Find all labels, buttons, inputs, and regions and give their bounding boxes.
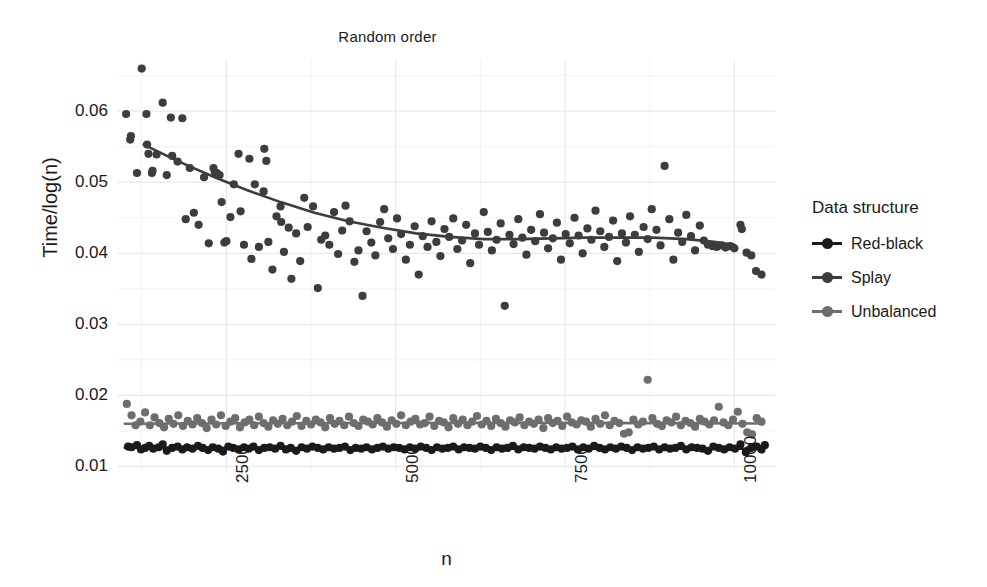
legend-swatch-unbalanced [812, 302, 842, 322]
legend-label-unbalanced: Unbalanced [851, 303, 936, 321]
x-tick-label: 10000 [741, 436, 761, 483]
x-tick-label: 2500 [233, 445, 253, 483]
legend-item-unbalanced[interactable]: Unbalanced [812, 298, 982, 326]
legend-label-red-black: Red-black [851, 235, 923, 253]
chart-figure: Random order 0.010.020.030.040.050.06 25… [0, 0, 987, 587]
legend-title: Data structure [812, 198, 982, 218]
x-tick-label: 5000 [403, 445, 423, 483]
legend-swatch-splay [812, 268, 842, 288]
legend-item-red-black[interactable]: Red-black [812, 230, 982, 258]
y-axis-title: Time/log(n) [39, 98, 62, 318]
legend-item-splay[interactable]: Splay [812, 264, 982, 292]
legend-swatch-red-black [812, 234, 842, 254]
x-tick-label: 7500 [572, 445, 592, 483]
legend-label-splay: Splay [851, 269, 891, 287]
legend: Data structure Red-black Splay Unbalance… [812, 198, 982, 332]
x-axis-title: n [118, 548, 775, 570]
